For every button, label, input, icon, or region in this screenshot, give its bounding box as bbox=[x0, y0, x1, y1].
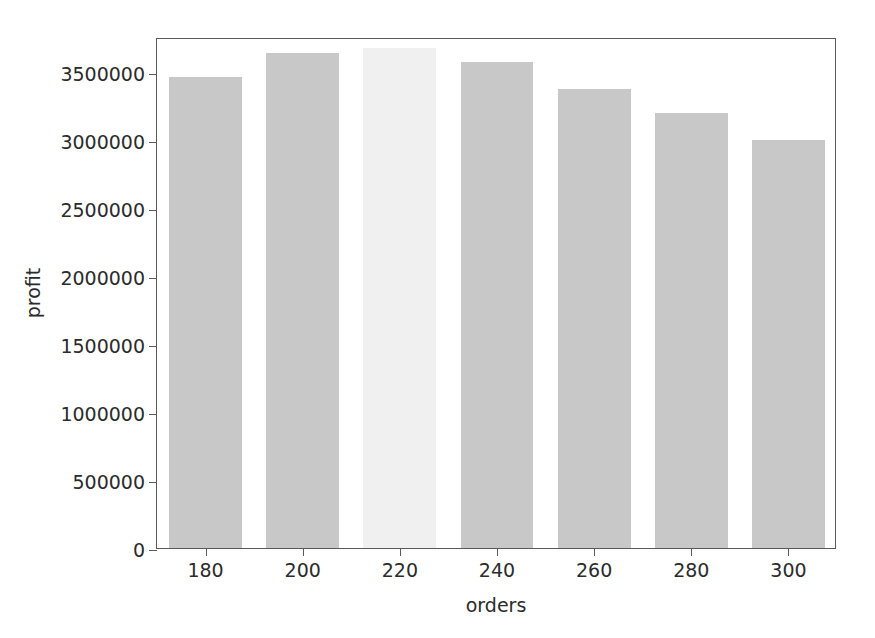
x-tick-mark bbox=[594, 548, 595, 556]
bar-280 bbox=[655, 113, 728, 548]
x-tick-mark bbox=[303, 548, 304, 556]
x-tick-mark bbox=[206, 548, 207, 556]
y-tick-mark bbox=[149, 142, 157, 143]
y-tick-mark bbox=[149, 550, 157, 551]
bar-chart-figure: 0500000100000015000002000000250000030000… bbox=[0, 0, 875, 638]
y-tick-label: 500000 bbox=[72, 473, 145, 492]
y-tick-mark bbox=[149, 414, 157, 415]
x-tick-mark bbox=[400, 548, 401, 556]
x-tick-mark bbox=[788, 548, 789, 556]
x-tick-mark bbox=[497, 548, 498, 556]
plot-area: 0500000100000015000002000000250000030000… bbox=[156, 38, 836, 549]
x-tick-label: 200 bbox=[285, 561, 321, 580]
bar-180 bbox=[169, 77, 242, 548]
bars-layer bbox=[157, 39, 835, 548]
y-tick-label: 1500000 bbox=[60, 337, 145, 356]
x-tick-label: 280 bbox=[673, 561, 709, 580]
x-tick-mark bbox=[691, 548, 692, 556]
bar-240 bbox=[461, 62, 534, 548]
y-axis-title: profit bbox=[24, 268, 43, 319]
y-tick-mark bbox=[149, 346, 157, 347]
y-tick-mark bbox=[149, 210, 157, 211]
bar-260 bbox=[558, 89, 631, 548]
x-tick-label: 180 bbox=[187, 561, 223, 580]
y-tick-mark bbox=[149, 74, 157, 75]
x-axis-title: orders bbox=[156, 596, 836, 615]
y-tick-label: 2000000 bbox=[60, 269, 145, 288]
y-tick-mark bbox=[149, 482, 157, 483]
y-tick-label: 3000000 bbox=[60, 133, 145, 152]
y-tick-label: 0 bbox=[133, 541, 145, 560]
x-tick-label: 220 bbox=[382, 561, 418, 580]
x-tick-label: 240 bbox=[479, 561, 515, 580]
bar-200 bbox=[266, 53, 339, 548]
bar-300 bbox=[752, 140, 825, 548]
bar-220 bbox=[363, 48, 436, 548]
y-tick-label: 3500000 bbox=[60, 65, 145, 84]
y-tick-mark bbox=[149, 278, 157, 279]
x-tick-label: 300 bbox=[770, 561, 806, 580]
y-tick-label: 1000000 bbox=[60, 405, 145, 424]
x-tick-label: 260 bbox=[576, 561, 612, 580]
y-tick-label: 2500000 bbox=[60, 201, 145, 220]
